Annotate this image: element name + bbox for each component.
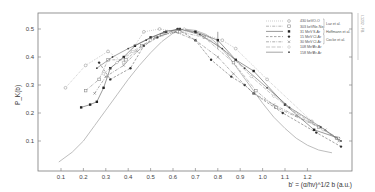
data-point-marker <box>255 89 258 92</box>
legend-system: Ne-Ne <box>313 25 323 29</box>
legend-group-label: Luz et al. <box>326 22 341 26</box>
data-point-marker <box>105 75 107 77</box>
legend-system: Br-Ar <box>313 45 322 49</box>
data-point-marker <box>109 78 111 80</box>
data-point-marker <box>232 61 235 64</box>
data-point-marker <box>84 64 87 67</box>
data-point-marker <box>136 50 138 52</box>
x-axis-ticks: 0.10.20.30.40.50.60.70.80.91.01.11.2 <box>57 168 312 180</box>
legend-bracket <box>323 35 324 44</box>
data-point-marker <box>252 70 254 72</box>
x-tick-label: 0.5 <box>146 174 155 180</box>
data-point-marker <box>288 51 290 53</box>
x-tick-label: 0.3 <box>102 174 111 180</box>
legend-system: Br-Ar <box>313 51 322 55</box>
x-tick-label: 0.7 <box>191 174 200 180</box>
data-point-marker <box>123 64 125 66</box>
chart: 0.10.20.30.40.50.60.70.80.91.01.11.2 0.1… <box>0 0 375 192</box>
y-tick-label: 0.1 <box>26 138 35 144</box>
data-point-marker <box>127 48 129 50</box>
data-point-marker <box>234 47 237 50</box>
data-point-marker <box>89 103 91 105</box>
y-tick-label: 0.5 <box>26 26 35 32</box>
x-tick-label: 0.8 <box>214 174 223 180</box>
legend-energy: 31 MeV <box>300 30 313 34</box>
data-point-marker <box>282 112 284 114</box>
data-point-marker <box>145 39 147 41</box>
data-point-marker <box>122 61 125 64</box>
side-note: I.1232 - FB <box>360 15 364 33</box>
data-point-marker <box>340 140 342 142</box>
data-point-marker <box>107 50 110 53</box>
data-point-marker <box>289 107 291 109</box>
data-point-marker <box>163 31 165 33</box>
data-point-marker <box>340 145 342 147</box>
data-point-marker <box>288 25 291 28</box>
x-tick-label: 0.9 <box>236 174 245 180</box>
data-point-marker <box>178 31 181 34</box>
data-point-marker <box>230 75 232 77</box>
x-tick-label: 1.0 <box>258 174 267 180</box>
data-point-marker <box>98 78 101 81</box>
legend-energy: 30 MeV <box>300 40 313 44</box>
legend-energy: 303 keV <box>300 25 314 29</box>
data-point-marker <box>221 39 224 42</box>
legend-bracket <box>323 29 324 33</box>
data-point-marker <box>288 46 291 49</box>
y-tick-label: 0.2 <box>26 110 35 116</box>
legend-system: S-Ar <box>313 30 321 34</box>
data-point-marker <box>64 86 67 89</box>
legend-group-label: Cocke et al. <box>326 38 345 42</box>
data-point-marker <box>288 35 290 37</box>
x-tick-label: 0.4 <box>124 174 133 180</box>
data-point-marker <box>96 101 98 103</box>
data-point-marker <box>210 59 212 61</box>
y-tick-label: 0.3 <box>26 82 35 88</box>
data-point-marker <box>102 87 104 89</box>
y-axis-label: P_K(b) <box>14 85 22 105</box>
legend: 430 keVO-O303 keVNe-Ne31 MeVS-Ar15 MeVCl… <box>266 19 350 55</box>
legend-energy: 430 keV <box>300 19 314 23</box>
x-tick-label: 0.2 <box>79 174 88 180</box>
data-point-marker <box>315 131 317 133</box>
data-point-marker <box>96 67 98 69</box>
data-point-marker <box>199 34 201 36</box>
x-tick-label: 0.1 <box>57 174 66 180</box>
data-point-marker <box>179 28 181 30</box>
legend-energy: 15 MeV <box>300 35 313 39</box>
data-point-marker <box>288 41 290 43</box>
data-point-marker <box>244 67 246 69</box>
data-point-marker <box>112 56 114 58</box>
x-tick-label: 1.1 <box>281 174 290 180</box>
x-tick-label: 0.6 <box>169 174 178 180</box>
legend-system: O-O <box>313 19 320 23</box>
legend-system: Cl-Ar <box>313 35 322 39</box>
data-point-marker <box>288 30 290 32</box>
data-point-marker <box>158 28 161 31</box>
x-tick-label: 1.2 <box>303 174 312 180</box>
y-tick-label: 0.4 <box>26 54 35 60</box>
data-point-marker <box>142 30 145 33</box>
data-point-marker <box>93 92 95 94</box>
data-point-marker <box>266 87 268 89</box>
legend-system: Cl-Ar <box>313 40 322 44</box>
data-point-marker <box>288 20 291 23</box>
data-point-marker <box>266 78 269 81</box>
data-point-marker <box>217 56 219 58</box>
data-point-marker <box>125 59 128 62</box>
data-point-marker <box>320 126 322 128</box>
data-point-marker <box>98 61 100 63</box>
data-point-marker <box>84 89 87 92</box>
data-point-marker <box>80 106 82 108</box>
legend-group-label: Hoffmann et al. <box>326 30 350 34</box>
data-point-marker <box>129 67 131 69</box>
data-point-marker <box>221 48 223 50</box>
data-point-marker <box>232 73 234 75</box>
x-axis-label: b' = (α/hν)^1/2 b (a.u.) <box>288 181 352 189</box>
